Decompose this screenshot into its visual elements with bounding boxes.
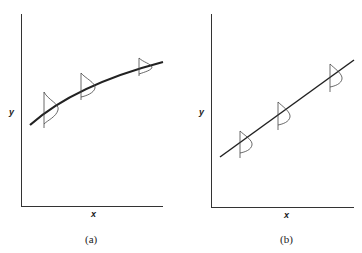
panel-a-caption: (a) xyxy=(85,233,97,245)
panel-a-axes xyxy=(21,14,163,207)
panel-b-axes xyxy=(211,14,354,208)
panel-b-y-axis-label: y xyxy=(199,107,204,117)
diagram-canvas xyxy=(0,0,362,253)
panel-b-caption: (b) xyxy=(280,233,293,245)
panel-a-x-axis-label: x xyxy=(91,209,96,219)
panel-a-distributions xyxy=(44,58,152,128)
panel-b-distributions xyxy=(240,64,342,158)
panel-a-y-axis-label: y xyxy=(9,107,14,117)
panel-b-x-axis-label: x xyxy=(284,210,289,220)
panel-a-regression-curve xyxy=(30,62,163,125)
